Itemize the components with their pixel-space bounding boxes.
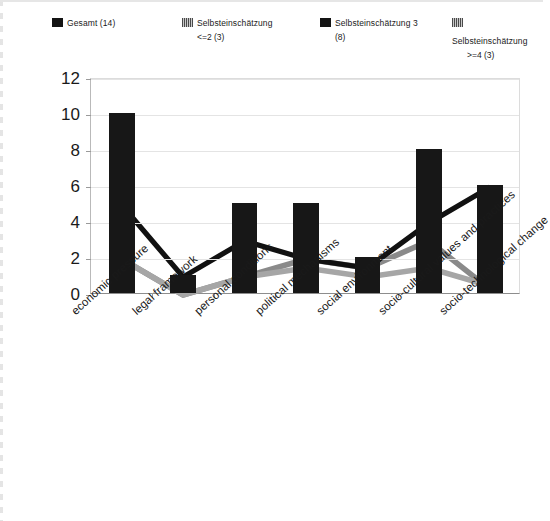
black-square-icon — [52, 18, 63, 27]
chart-plot-area: 024681012 — [0, 60, 543, 310]
legend-label-second-line: <=2 (3) — [197, 32, 273, 42]
gridline — [91, 151, 519, 152]
scan-edge-top — [0, 0, 543, 2]
gray-hatch-square-icon — [452, 18, 463, 27]
legend-item-2: Selbsteinschätzung<=2 (3) — [182, 13, 273, 42]
y-axis-tick-label: 6 — [71, 178, 80, 195]
gridline — [91, 187, 519, 188]
legend-label: Selbsteinschätzung 3 — [335, 18, 418, 28]
x-axis-labels: economic pressurelegal frameworkpersonal… — [0, 294, 543, 504]
y-axis-tick-mark — [86, 115, 91, 116]
y-axis-tick-label: 12 — [61, 70, 80, 87]
y-axis-tick-mark — [86, 223, 91, 224]
y-axis-tick-mark — [86, 259, 91, 260]
gray-hatch-square-icon — [182, 18, 193, 27]
y-axis-tick-mark — [86, 187, 91, 188]
chart-legend: Gesamt (14)Selbsteinschätzung<=2 (3)Selb… — [52, 13, 530, 53]
legend-label: Selbsteinschätzung — [197, 18, 273, 28]
y-axis-tick-label: 4 — [71, 214, 80, 231]
y-axis-tick-mark — [86, 151, 91, 152]
legend-item-3: Selbsteinschätzung 3(8) — [320, 13, 418, 42]
y-axis-tick-mark — [86, 79, 91, 80]
y-axis: 024681012 — [44, 78, 86, 294]
legend-label-second-line: (8) — [335, 32, 418, 42]
black-square-icon — [320, 18, 331, 27]
legend-label: Selbsteinschätzung — [452, 36, 528, 46]
y-axis-tick-label: 8 — [71, 142, 80, 159]
legend-item-1: Gesamt (14) — [52, 13, 115, 31]
legend-item-4: Selbsteinschätzung>=4 (3) — [452, 13, 530, 60]
gridline — [91, 79, 519, 80]
y-axis-tick-label: 10 — [61, 106, 80, 123]
legend-label: Gesamt (14) — [67, 18, 115, 28]
y-axis-tick-label: 2 — [71, 250, 80, 267]
legend-label-second-line: >=4 (3) — [467, 50, 530, 60]
gridline — [91, 115, 519, 116]
